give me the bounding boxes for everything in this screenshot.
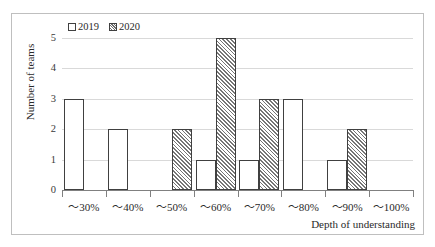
- bar-group: [194, 38, 238, 190]
- bar-group: [325, 38, 369, 190]
- legend-entry-2019[interactable]: 2019: [68, 22, 99, 33]
- bar-2019-〜40%[interactable]: [108, 129, 128, 190]
- x-axis-tick-label: 〜100%: [369, 198, 413, 214]
- y-axis-title: Number of teams: [24, 32, 36, 132]
- bar-group: [369, 38, 413, 190]
- x-axis-tickmark: [194, 190, 195, 197]
- x-axis-tickmark: [281, 190, 282, 197]
- bar-groups: [62, 38, 413, 190]
- bar-2020-〜70%[interactable]: [259, 99, 279, 190]
- hatched-square-icon: [109, 23, 117, 31]
- x-axis-tickmark: [150, 190, 151, 197]
- empty-square-icon: [68, 23, 76, 31]
- chart-figure: 2019 2020 Number of teams 012345 〜30%〜40…: [11, 13, 424, 235]
- y-axis-tick-label: 5: [51, 33, 56, 44]
- x-axis-tickmark: [62, 190, 63, 197]
- bar-2020-〜50%[interactable]: [172, 129, 192, 190]
- bar-group: [106, 38, 150, 190]
- bar-2020-〜90%[interactable]: [347, 129, 367, 190]
- bar-2019-〜90%[interactable]: [327, 160, 347, 190]
- y-axis-tick-label: 4: [51, 63, 56, 74]
- bar-group: [238, 38, 282, 190]
- x-axis-tickmark: [369, 190, 370, 197]
- bar-2019-〜70%[interactable]: [239, 160, 259, 190]
- x-axis-tickmark: [238, 190, 239, 197]
- x-axis-tick-label: 〜70%: [238, 198, 282, 214]
- x-axis-tick-label: 〜60%: [194, 198, 238, 214]
- legend-label-2019: 2019: [78, 22, 99, 33]
- bar-2019-〜80%[interactable]: [283, 99, 303, 190]
- x-axis-tick-label: 〜50%: [150, 198, 194, 214]
- legend-entry-2020[interactable]: 2020: [109, 22, 140, 33]
- x-axis-tick-label: 〜90%: [325, 198, 369, 214]
- x-axis-tick-label: 〜80%: [281, 198, 325, 214]
- bar-2019-〜60%[interactable]: [196, 160, 216, 190]
- y-axis-tick-label: 3: [51, 94, 56, 105]
- x-axis-tickmark: [413, 190, 414, 197]
- y-axis-tick-label: 0: [51, 185, 56, 196]
- y-axis-tick-label: 1: [51, 154, 56, 165]
- x-axis-tick-label: 〜30%: [62, 198, 106, 214]
- x-axis-tickmarks: [62, 190, 413, 197]
- y-axis-tick-label: 2: [51, 124, 56, 135]
- bar-group: [150, 38, 194, 190]
- bar-group: [62, 38, 106, 190]
- x-axis-tick-label: 〜40%: [106, 198, 150, 214]
- bar-2019-〜30%[interactable]: [64, 99, 84, 190]
- plot-area: 012345: [62, 38, 413, 190]
- x-axis-tick-labels: 〜30%〜40%〜50%〜60%〜70%〜80%〜90%〜100%: [62, 198, 413, 214]
- x-axis-tickmark: [325, 190, 326, 197]
- x-axis-title: Depth of understanding: [311, 218, 415, 230]
- legend-label-2020: 2020: [119, 22, 140, 33]
- bar-group: [281, 38, 325, 190]
- x-axis-tickmark: [106, 190, 107, 197]
- chart-legend: 2019 2020: [68, 20, 140, 34]
- bar-2020-〜60%[interactable]: [216, 38, 236, 190]
